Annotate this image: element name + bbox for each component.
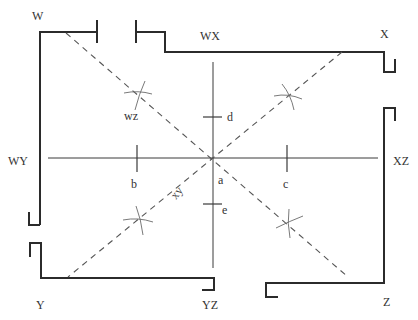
wall-top-left [40,32,97,225]
wall-top-right [136,32,395,72]
label-point-d: d [227,110,233,124]
label-wall-yz: YZ [202,298,218,312]
arc-mark-upper-left-1 [124,92,152,94]
label-diagonal-xy: xy [167,184,185,202]
label-corner-x: X [380,27,389,41]
wall-bottom-left [30,243,214,290]
label-wall-wx: WX [200,29,220,43]
arc-mark-lower-left-1 [123,219,153,222]
floor-plan-diagram: W X Y Z WX WY XZ YZ wz xy a b c d e [0,0,418,320]
label-diagonal-wz: wz [124,109,138,123]
ticks [137,117,287,204]
axes [48,62,378,268]
label-corner-y: Y [36,298,45,312]
wall-labels: WX WY XZ YZ [8,29,409,312]
arc-mark-lower-right-1 [276,216,303,228]
label-point-c: c [283,177,288,191]
label-wall-wy: WY [8,154,28,168]
label-corner-w: W [32,9,44,23]
diagonal-wz [66,33,348,277]
arc-mark-upper-left-2 [135,81,145,110]
diagonals [66,33,348,277]
diagonal-xy [68,52,342,277]
label-point-b: b [131,177,137,191]
label-point-a: a [218,173,224,187]
wall-right [266,108,395,297]
point-labels: a b c d e [131,110,288,217]
label-wall-xz: XZ [393,154,409,168]
label-corner-z: Z [383,295,390,309]
arc-mark-lower-right-2 [288,209,290,238]
label-point-e: e [222,203,227,217]
wall-left-lower-stub [29,212,40,225]
